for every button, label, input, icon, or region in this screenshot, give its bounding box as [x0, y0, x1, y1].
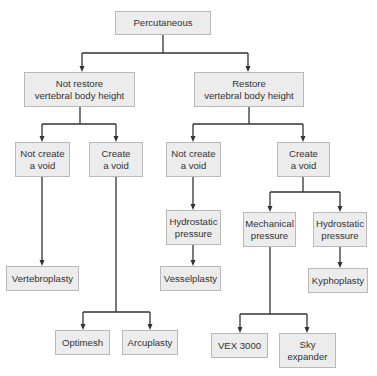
- node-hydrostatic-pressure-mid: Hydrostatic pressure: [166, 210, 221, 245]
- connector-restore-split: [191, 107, 306, 142]
- node-vertebroplasty: Vertebroplasty: [6, 266, 79, 291]
- node-nr-not-create-void: Not create a void: [15, 142, 70, 177]
- node-restore-height: Restore vertebral body height: [194, 72, 304, 107]
- node-r-create-void: Create a void: [277, 142, 330, 177]
- node-r-not-create-void: Not create a void: [166, 142, 221, 177]
- connector-lines: [0, 0, 377, 376]
- node-optimesh: Optimesh: [55, 330, 110, 355]
- node-sky-expander: Sky expander: [279, 333, 336, 368]
- connector-nr-not-create-down: [40, 177, 45, 266]
- node-percutaneous: Percutaneous: [115, 11, 211, 35]
- node-not-restore-height: Not restore vertebral body height: [24, 72, 135, 107]
- node-mechanical-pressure: Mechanical pressure: [243, 212, 296, 247]
- connector-hydrostatic-mid-down: [191, 245, 196, 266]
- node-kyphoplasty: Kyphoplasty: [308, 268, 368, 293]
- node-vesselplasty: Vesselplasty: [160, 266, 221, 291]
- connector-not-restore-split: [40, 107, 119, 142]
- flowchart: Percutaneous Not restore vertebral body …: [0, 0, 377, 376]
- connector-mechanical-split: [238, 247, 310, 333]
- node-nr-create-void: Create a void: [89, 142, 143, 177]
- connector-percutaneous-split: [80, 35, 251, 72]
- node-hydrostatic-pressure-right: Hydrostatic pressure: [313, 212, 367, 247]
- node-vex-3000: VEX 3000: [211, 333, 268, 358]
- connector-hydrostatic-right-down: [338, 247, 343, 268]
- connector-r-not-create-down: [191, 177, 196, 210]
- node-arcuplasty: Arcuplasty: [122, 330, 178, 355]
- connector-r-create-split: [268, 177, 343, 212]
- connector-nr-create-split: [81, 177, 153, 330]
